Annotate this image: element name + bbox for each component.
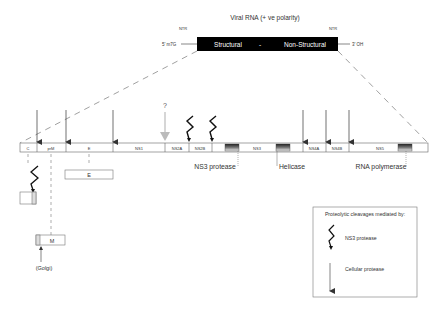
- squiggle-arrow-icon: [31, 166, 38, 190]
- squiggle-arrow-icon: [187, 116, 193, 139]
- legend: Proteolytic cleavages mediated by: NS3 p…: [313, 207, 417, 297]
- legend-cellular-protease: Cellular protease: [345, 266, 384, 272]
- structural-label: Structural: [214, 41, 242, 48]
- segment-c: C: [27, 146, 30, 151]
- e-product-label: E: [87, 172, 91, 178]
- ns3-cleavage-squiggles: [187, 116, 216, 139]
- separator-label: -: [259, 41, 261, 48]
- segment-ns3: NS3: [253, 146, 262, 151]
- expansion-line-right: [338, 51, 428, 143]
- legend-ns3-protease: NS3 protease: [345, 235, 377, 241]
- genome-diagram: Viral RNA (+ ve polarity) NTR NTR 5' m7G…: [162, 14, 363, 51]
- m-product-label: M: [50, 238, 55, 244]
- squiggle-arrow-icon: [210, 116, 216, 139]
- legend-title: Proteolytic cleavages mediated by:: [325, 211, 405, 217]
- segment-ns2b: NS2B: [195, 146, 206, 151]
- helicase-label: Helicase: [279, 163, 305, 170]
- ns3-protease-label: NS3 protease: [194, 163, 236, 171]
- rna-polymerase-domain: [398, 144, 412, 151]
- cellular-protease-arrows: [37, 110, 349, 142]
- golgi-label: (Golgi): [36, 265, 53, 271]
- ntr-right-label: NTR: [329, 26, 337, 31]
- helicase-domain: [276, 144, 290, 151]
- segment-ns2a: NS2A: [172, 146, 183, 151]
- segment-prm: prM: [48, 146, 55, 151]
- ns3-protease-domain: [225, 144, 239, 151]
- segment-e: E: [88, 146, 91, 151]
- segment-ns5: NS5: [376, 146, 385, 151]
- genome-title: Viral RNA (+ ve polarity): [230, 14, 299, 22]
- expansion-line-left: [20, 51, 197, 143]
- non-structural-label: Non-Structural: [284, 41, 326, 48]
- three-prime-label: 3' OH: [352, 42, 363, 47]
- segment-ns1: NS1: [135, 146, 144, 151]
- ntr-left-label: NTR: [179, 26, 187, 31]
- segment-ns4b: NS4B: [332, 146, 343, 151]
- segment-ns4a: NS4A: [309, 146, 320, 151]
- polyprotein-bar: C prM E NS1 NS2A NS2B NS3 NS4A NS4B NS5: [20, 143, 428, 152]
- five-prime-label: 5' m7G: [162, 42, 177, 47]
- rna-polymerase-label: RNA polymerase: [356, 163, 407, 171]
- unknown-cleavage-label: ?: [163, 102, 167, 109]
- unknown-arrow-icon: [160, 132, 170, 141]
